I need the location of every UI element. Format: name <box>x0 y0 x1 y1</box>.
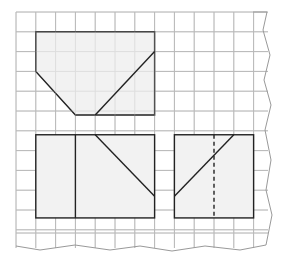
torn-edge-bottom <box>16 245 266 251</box>
shapes-layer <box>16 12 268 248</box>
bottom-left-rectangle <box>36 135 155 218</box>
grid-diagram <box>0 0 287 262</box>
